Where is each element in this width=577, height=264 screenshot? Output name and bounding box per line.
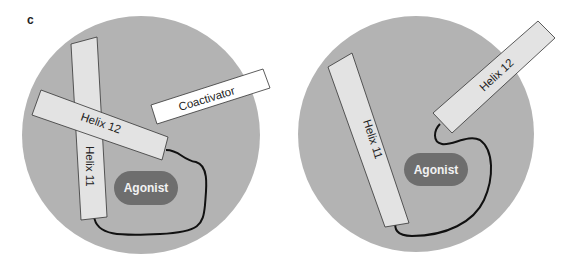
panel-label: c xyxy=(27,13,34,27)
nuclear-receptor-diagram: c Helix 11 Helix 12 Coactivator Agonist … xyxy=(0,0,577,264)
left-helix11-label: Helix 11 xyxy=(84,146,96,187)
right-agonist-label: Agonist xyxy=(414,163,459,177)
left-diagram: Helix 11 Helix 12 Coactivator Agonist xyxy=(22,16,270,254)
right-domain-circle xyxy=(298,16,534,252)
left-agonist-label: Agonist xyxy=(124,181,169,195)
right-diagram: Helix 11 Helix 12 Agonist xyxy=(298,16,555,252)
